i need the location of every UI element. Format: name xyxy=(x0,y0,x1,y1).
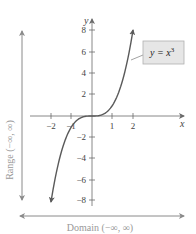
y-tick-label: 6 xyxy=(82,47,87,57)
y-tick-label: −8 xyxy=(76,195,86,205)
x-tick-label: 1 xyxy=(110,121,115,131)
equation-text: y = x xyxy=(149,47,171,58)
x-axis-label: x xyxy=(179,118,185,129)
y-tick-label: −4 xyxy=(76,153,86,163)
range-label: Range (−∞, ∞) xyxy=(4,120,16,180)
y-tick-label: 4 xyxy=(82,68,87,78)
y-tick-label: −6 xyxy=(76,175,86,185)
equation-exponent: 3 xyxy=(171,46,175,54)
y-tick-label: −2 xyxy=(76,132,86,142)
cubic-function-chart: Range (−∞, ∞) Domain (−∞, ∞) x y −2 −1 1… xyxy=(0,0,196,234)
callout-leader xyxy=(131,55,143,60)
domain-label: Domain (−∞, ∞) xyxy=(67,222,133,234)
equation-label-box: y = x3 xyxy=(143,41,184,64)
x-tick-label: 2 xyxy=(131,121,136,131)
y-tick-label: 8 xyxy=(82,25,87,35)
x-tick-label: −2 xyxy=(46,121,56,131)
y-tick-label: 2 xyxy=(82,89,87,99)
